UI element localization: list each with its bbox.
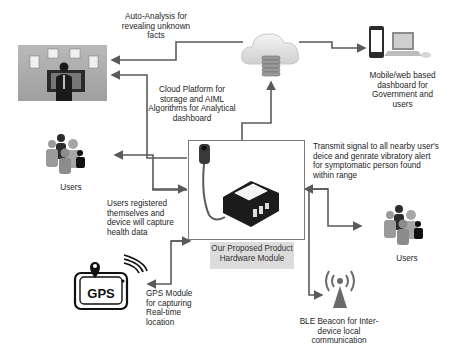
cloud-platform-label: Cloud Platform for storage and AIML Algo… [147,85,237,123]
gps-device-icon: GPS [72,253,152,313]
users-registered-label: Users registered themselves and device w… [107,199,181,237]
users-right-group [383,205,429,245]
users-icon [383,205,429,245]
gps-module: GPS [72,253,152,313]
cloud-node [240,28,302,82]
gps-text: GPS [87,286,115,301]
dashboard-label: Mobile/web based dashboard for Governmen… [365,71,440,109]
users-left-label: Users [45,183,97,193]
beacon-icon [320,268,360,310]
analyst-icon [18,45,107,101]
users-icon [45,134,91,174]
transmit-signal-label: Transmit signal to all nearby user's dei… [313,142,441,180]
users-right-label: Users [382,254,432,264]
phone-laptop-icon [368,25,434,61]
analytics-person-image [18,45,107,101]
dashboard-devices [368,25,434,61]
ble-beacon [320,268,360,310]
cloud-database-icon [240,28,302,82]
hardware-device-icon [189,141,304,239]
ble-label: BLE Beacon for Inter-device local commun… [296,317,382,346]
gps-label: GPS Module for capturing Real-time locat… [146,289,204,327]
hardware-module-caption: Our Proposed Product Hardware Module [210,242,294,269]
hardware-module-box [188,140,305,240]
users-left-group [45,134,91,174]
auto-analysis-label: Auto-Analysis for revealing unknown fact… [118,12,194,41]
